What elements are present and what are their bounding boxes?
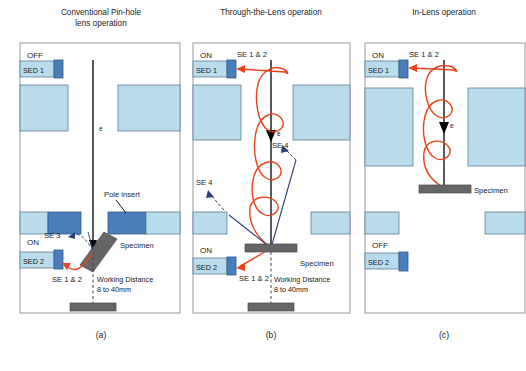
panel-a-sed2-state: ON — [27, 238, 39, 247]
panel-c-sed1-label: SED 1 — [368, 66, 389, 75]
panel-a-beam-label: e — [99, 125, 103, 132]
panel-b-title-line1: Through-the-Lens operation — [220, 8, 322, 17]
panel-a-se3-label: SE 3 — [44, 231, 60, 240]
panel-b-stage — [248, 303, 294, 311]
panel-b-wd-value: 8 to 40mm — [274, 285, 308, 294]
panel-a-se12-label: SE 1 & 2 — [52, 275, 82, 284]
panel-b-specimen-label: Specimen — [300, 259, 334, 268]
panel-a-upper-lens-right — [118, 85, 180, 131]
panel-b-specimen — [245, 244, 297, 252]
panel-b-se4-upper-label: SE 4 — [272, 141, 288, 150]
panel-b-pole-left — [193, 212, 227, 234]
panel-a-wd-label: Working Distance — [97, 275, 153, 284]
panel-a-stage — [70, 303, 116, 311]
panel-a-title-line1: Conventional Pin-hole — [61, 8, 142, 17]
panel-c-upper-lens-right — [468, 88, 525, 166]
panel-c-pole-left — [365, 212, 399, 234]
panel-c-sed2-label: SED 2 — [368, 258, 389, 267]
panel-b-sed1-state: ON — [200, 51, 212, 60]
panel-b-upper-lens-left — [193, 85, 241, 140]
panel-a-upper-lens-left — [20, 85, 68, 131]
panel-a-wd-value: 8 to 40mm — [97, 285, 131, 294]
panel-b-upper-lens-right — [293, 85, 350, 140]
panel-c-specimen — [419, 185, 471, 193]
panel-b-se12-bottom-label: SE 1 & 2 — [239, 274, 269, 283]
panel-c-upper-lens-left — [365, 88, 413, 166]
panel-c-se12-label: SE 1 & 2 — [409, 50, 439, 59]
panel-a-sed2-label: SED 2 — [23, 257, 44, 266]
panel-b-sed2-cap — [227, 257, 236, 275]
panel-a-specimen-label: Specimen — [120, 241, 154, 250]
panel-c-title-line1: In-Lens operation — [412, 8, 476, 17]
panel-c-caption: (c) — [439, 330, 449, 340]
panel-a-title-line2: lens operation — [75, 19, 127, 28]
panel-b: ON SED 1 ON SED 2 e SE 1 & 2 SE 1 & 2 SE… — [193, 43, 350, 340]
panel-c-specimen-label: Specimen — [474, 186, 508, 195]
panel-a-sed1-state: OFF — [27, 51, 43, 60]
figure-root: Conventional Pin-hole lens operation Thr… — [0, 0, 526, 371]
panel-c-chamber — [365, 43, 525, 313]
panel-c-sed1-cap — [399, 60, 408, 78]
panel-b-se4-left-label: SE 4 — [196, 178, 212, 187]
sem-detector-diagram: Conventional Pin-hole lens operation Thr… — [0, 0, 526, 371]
panel-b-pole-right — [311, 212, 350, 234]
panel-a-pole-insert-label: Pole insert — [104, 190, 141, 199]
panel-c-sed2-cap — [399, 252, 408, 271]
panel-a-sed1-cap — [54, 60, 63, 78]
panel-a-sed2-cap — [54, 250, 63, 269]
panel-c-beam-label: e — [450, 122, 454, 129]
panel-b-sed1-label: SED 1 — [196, 66, 217, 75]
panel-b-wd-label: Working Distance — [274, 275, 330, 284]
panel-a-caption: (a) — [96, 330, 107, 340]
panel-c-sed1-state: ON — [372, 51, 384, 60]
panel-a-chamber — [20, 43, 180, 313]
panel-b-caption: (b) — [266, 330, 277, 340]
panel-a: OFF SED 1 ON SED 2 e Specimen Pole inser… — [20, 43, 180, 340]
panel-c: ON SED 1 OFF SED 2 e SE 1 & 2 Specimen (… — [365, 43, 525, 340]
panel-a-sed1-label: SED 1 — [23, 66, 44, 75]
panel-b-sed1-cap — [227, 60, 236, 78]
panel-a-pole-right-body — [146, 212, 180, 234]
panel-b-sed2-state: ON — [200, 246, 212, 255]
panel-c-sed2-state: OFF — [372, 241, 388, 250]
panel-b-sed2-label: SED 2 — [196, 263, 217, 272]
panel-c-pole-right — [485, 212, 525, 234]
panel-b-se12-top-label: SE 1 & 2 — [237, 50, 267, 59]
panel-a-pole-insert-right — [108, 212, 146, 234]
